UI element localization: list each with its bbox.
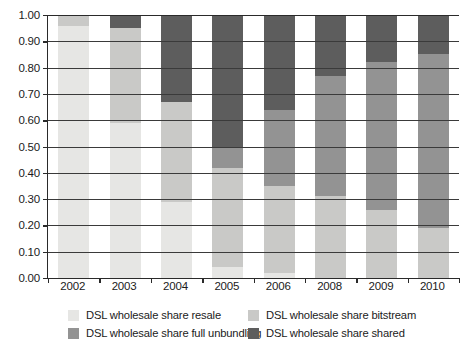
y-tick-label: 0.90 <box>18 35 40 47</box>
bar-segment[interactable] <box>161 15 192 102</box>
legend-item[interactable]: DSL wholesale share resale <box>68 310 221 321</box>
y-tick-label: 0.60 <box>18 114 40 126</box>
y-tick-label: 0.10 <box>18 246 40 258</box>
legend-swatch <box>68 328 79 339</box>
legend-label: DSL wholesale share bitstream <box>266 310 416 321</box>
bar-segment[interactable] <box>58 15 89 26</box>
y-tick-label: 0.50 <box>18 141 40 153</box>
y-tick-label: 0.30 <box>18 193 40 205</box>
gridline <box>48 120 459 121</box>
chart-legend: DSL wholesale share resaleDSL wholesale … <box>0 305 473 347</box>
y-tick-label: 0.70 <box>18 88 40 100</box>
y-tick-label: 1.00 <box>18 9 40 21</box>
bar-segment[interactable] <box>315 196 346 278</box>
x-axis-labels: 20022003200420052006200820092010 <box>47 280 458 300</box>
bar-segment[interactable] <box>264 273 295 278</box>
bar-segment[interactable] <box>418 15 449 54</box>
bar-segment[interactable] <box>110 15 141 28</box>
legend-label: DSL wholesale share shared <box>266 328 405 339</box>
gridline <box>48 147 459 148</box>
bar-segment[interactable] <box>212 267 243 278</box>
bar-segment[interactable] <box>418 54 449 228</box>
x-tick-mark <box>459 278 460 283</box>
x-tick-label: 2006 <box>266 280 291 292</box>
bar-segment[interactable] <box>212 15 243 147</box>
y-axis-labels: 0.000.100.200.300.400.500.600.700.800.90… <box>0 0 44 300</box>
legend-item[interactable]: DSL wholesale share bitstream <box>248 310 416 321</box>
bar-segment[interactable] <box>212 147 243 168</box>
x-tick-label: 2009 <box>369 280 394 292</box>
x-tick-label: 2008 <box>317 280 342 292</box>
gridline <box>48 199 459 200</box>
stacked-bar-chart: 0.000.100.200.300.400.500.600.700.800.90… <box>0 0 473 360</box>
legend-item[interactable]: DSL wholesale share shared <box>248 328 405 339</box>
legend-label: DSL wholesale share resale <box>86 310 221 321</box>
bar-segment[interactable] <box>366 210 397 278</box>
plot-area <box>47 15 459 279</box>
legend-item[interactable]: DSL wholesale share full unbundling <box>68 328 261 339</box>
plot-wrapper: 0.000.100.200.300.400.500.600.700.800.90… <box>0 0 473 300</box>
legend-swatch <box>68 310 79 321</box>
bar-segment[interactable] <box>110 28 141 123</box>
x-tick-label: 2005 <box>214 280 239 292</box>
y-tick-label: 0.00 <box>18 272 40 284</box>
bar-segment[interactable] <box>264 15 295 110</box>
bar-segment[interactable] <box>366 62 397 209</box>
gridline <box>48 173 459 174</box>
bar-segment[interactable] <box>366 15 397 62</box>
legend-swatch <box>248 328 259 339</box>
gridline <box>48 15 459 16</box>
x-tick-label: 2003 <box>112 280 137 292</box>
bar-segment[interactable] <box>315 15 346 75</box>
bar-segment[interactable] <box>161 102 192 202</box>
gridline <box>48 68 459 69</box>
bar-segment[interactable] <box>418 228 449 278</box>
bar-segment[interactable] <box>58 26 89 278</box>
gridline <box>48 252 459 253</box>
x-tick-label: 2002 <box>60 280 85 292</box>
legend-label: DSL wholesale share full unbundling <box>86 328 261 339</box>
x-tick-label: 2010 <box>420 280 445 292</box>
legend-swatch <box>248 310 259 321</box>
x-tick-label: 2004 <box>163 280 188 292</box>
gridline <box>48 94 459 95</box>
y-tick-label: 0.20 <box>18 219 40 231</box>
bar-segment[interactable] <box>161 202 192 278</box>
y-tick-label: 0.80 <box>18 62 40 74</box>
gridline <box>48 225 459 226</box>
gridline <box>48 41 459 42</box>
y-tick-label: 0.40 <box>18 167 40 179</box>
